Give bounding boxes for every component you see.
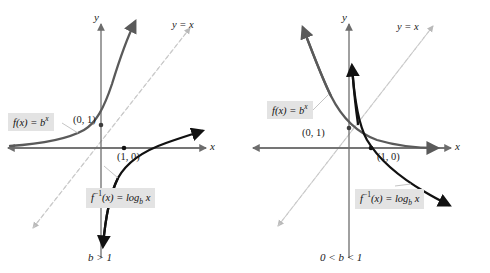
log-label-subscript: b [408,198,412,207]
point-0-1-marker [99,123,104,128]
y-axis-label: y [342,12,347,23]
point-1-0-label: (1, 0) [117,152,140,163]
log-label-superscript: −1 [94,189,102,198]
point-0-1-marker [347,126,352,131]
x-axis-label: x [210,141,215,152]
point-1-0-label: (1, 0) [377,152,400,163]
exponential-curve-upper-arrow [303,28,331,96]
left-panel-graph [0,0,245,273]
log-label-subscript: b [139,197,143,206]
exponential-function-label: f(x) = bx [8,113,54,131]
point-1-0-marker [369,146,374,151]
identity-line-label: y = x [397,22,419,33]
logarithm-function-label: f−1(x) = logb x [355,189,424,209]
exponential-label-head: f(x) = b [13,117,45,128]
point-0-1-label: (0, 1) [73,115,96,126]
exponential-label-exponent: x [304,102,307,111]
log-label-leader-line [104,166,118,178]
log-label-superscript: −1 [363,190,371,199]
exponential-function-label: f(x) = bx [267,101,313,119]
x-axis-label: x [455,141,460,152]
exponential-label-head: f(x) = b [272,105,304,116]
right-panel-caption: 0 < b < 1 [320,252,362,263]
log-label-mid: (x) = log [102,192,139,203]
logarithm-curve-upper-arrow [352,66,358,124]
point-0-1-label: (0, 1) [302,128,325,139]
exp-label-leader-line [313,94,329,110]
log-label-leader-line [395,184,411,186]
logarithm-function-label: f−1(x) = logb x [86,188,155,208]
exponential-label-exponent: x [45,114,48,123]
point-1-0-marker [122,146,127,151]
panel-b-greater-than-1: y x y = x f(x) = bx f−1(x) = logb x (0, … [0,0,245,273]
right-panel-graph [245,0,490,273]
log-label-tail: x [146,192,151,203]
log-label-mid: (x) = log [371,193,408,204]
y-axis-label: y [94,12,99,23]
figure-container: y x y = x f(x) = bx f−1(x) = logb x (0, … [0,0,490,273]
identity-line-label: y = x [172,20,194,31]
panel-b-between-0-and-1: y x y = x f(x) = bx f−1(x) = logb x (0, … [245,0,490,273]
log-label-tail: x [415,193,420,204]
left-panel-caption: b > 1 [88,252,112,263]
